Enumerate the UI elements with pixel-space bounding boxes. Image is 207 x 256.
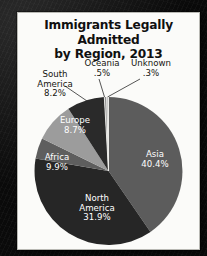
pie-label-unknown-name: Unknown bbox=[131, 58, 171, 68]
chart-card: Immigrants Legally Admitted by Region, 2… bbox=[17, 12, 200, 250]
chart-title: Immigrants Legally Admitted by Region, 2… bbox=[18, 18, 199, 62]
leader-line-oceania bbox=[99, 79, 105, 97]
pie-label-oceania-value: .5% bbox=[79, 69, 125, 79]
pie-label-africa-name: Africa bbox=[45, 152, 70, 162]
screenshot-root: Immigrants Legally Admitted by Region, 2… bbox=[0, 0, 207, 256]
pie-label-asia-value: 40.4% bbox=[129, 160, 181, 170]
pie-label-south-america-value: 8.2% bbox=[30, 89, 80, 99]
pie-label-oceania: Oceania .5% bbox=[79, 59, 125, 78]
pie-label-unknown-value: .3% bbox=[125, 69, 177, 79]
pie-label-south-america-name: South bbox=[43, 69, 68, 79]
pie-label-unknown: Unknown .3% bbox=[125, 59, 177, 78]
pie-label-oceania-name: Oceania bbox=[84, 58, 119, 68]
pie-label-asia-name: Asia bbox=[146, 149, 164, 159]
pie-label-north-america-value: 31.9% bbox=[66, 213, 128, 223]
pie-label-south-america: South America 8.2% bbox=[30, 70, 80, 99]
pie-label-europe-value: 8.7% bbox=[49, 126, 101, 136]
pie-label-africa-value: 9.9% bbox=[33, 163, 81, 173]
chart-title-line-1: Immigrants Legally Admitted bbox=[44, 18, 173, 47]
pie-label-africa: Africa 9.9% bbox=[33, 153, 81, 172]
pie-label-europe-name: Europe bbox=[60, 115, 90, 125]
pie-label-asia: Asia 40.4% bbox=[129, 150, 181, 169]
leader-line-unknown bbox=[108, 79, 141, 97]
pie-label-north-america: North America 31.9% bbox=[66, 194, 128, 223]
pie-label-europe: Europe 8.7% bbox=[49, 116, 101, 135]
pie-label-north-america-name: North bbox=[85, 193, 109, 203]
